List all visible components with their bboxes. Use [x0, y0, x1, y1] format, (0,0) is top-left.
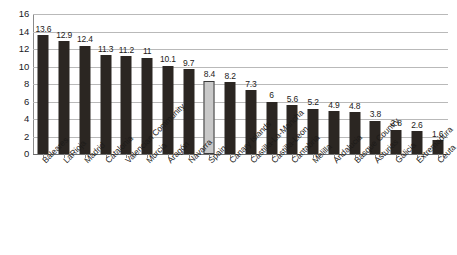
bar-value-label: 11 [143, 47, 151, 56]
bar-value-label: 11.3 [98, 45, 113, 54]
bar-slot: 2.6 [407, 14, 428, 154]
bar-value-label: 11.2 [119, 46, 134, 55]
bar-chart: 0246810121416 13.612.912.411.311.21110.1… [0, 0, 457, 255]
y-tick-label: 0 [24, 149, 29, 159]
bar-slot: 13.6 [33, 14, 54, 154]
bar-value-label: 5.6 [287, 95, 298, 104]
bar-value-label: 4.8 [349, 102, 360, 111]
bar-value-label: 4.9 [328, 101, 339, 110]
bar-value-label: 12.9 [56, 31, 72, 40]
bar-value-label: 3.8 [370, 110, 381, 119]
bar-value-label: 9.7 [183, 59, 194, 68]
y-tick-label: 6 [24, 97, 29, 107]
y-tick-label: 10 [19, 62, 29, 72]
bar-slot: 9.7 [178, 14, 199, 154]
bar [100, 55, 111, 154]
bar-value-label: 13.6 [36, 25, 52, 34]
x-axis-category-labels: BalearesLaRiojaMadridCataloniaValencian … [33, 158, 448, 253]
bar-slot: 12.9 [54, 14, 75, 154]
bar-value-label: 8.4 [204, 70, 215, 79]
y-tick-label: 14 [19, 27, 29, 37]
y-axis-ticks: 0246810121416 [0, 0, 33, 160]
bar [225, 82, 236, 154]
y-tick-label: 16 [19, 9, 29, 19]
bar-value-label: 2.6 [411, 121, 422, 130]
bar [38, 35, 49, 154]
bar-slot: 11.3 [95, 14, 116, 154]
bar-value-label: 7.3 [245, 80, 256, 89]
bar-value-label: 6 [269, 91, 274, 100]
bar-value-label: 10.1 [160, 55, 176, 64]
bar-slot: 4.9 [324, 14, 345, 154]
y-tick-label: 8 [24, 79, 29, 89]
y-tick-label: 4 [24, 114, 29, 124]
bar-slot: 12.4 [75, 14, 96, 154]
bar-value-label: 12.4 [77, 35, 93, 44]
bar-value-label: 5.2 [308, 98, 319, 107]
bar-slot: 8.4 [199, 14, 220, 154]
bar-value-label: 8.2 [225, 72, 236, 81]
bar-slot: 8.2 [220, 14, 241, 154]
y-tick-label: 12 [19, 44, 29, 54]
y-tick-label: 2 [24, 132, 29, 142]
